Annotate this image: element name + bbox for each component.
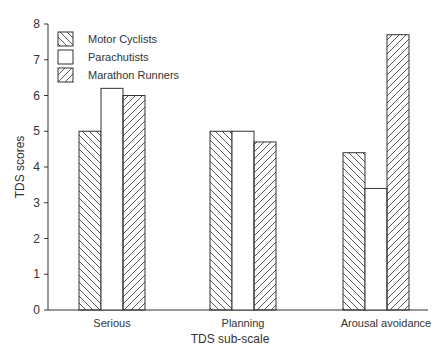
x-axis-label: TDS sub-scale [191,332,270,346]
legend-swatch [58,68,73,82]
bar-group-serious: Serious [79,88,145,329]
x-tick-label: Arousal avoidance [341,317,432,329]
legend-label: Motor Cyclists [88,33,158,45]
bar-marathon-runners [123,96,145,311]
legend-label: Marathon Runners [88,69,180,81]
bar-motor-cyclists [79,131,101,310]
legend-swatch [58,32,73,46]
bar-motor-cyclists [210,131,232,310]
bar-parachutists [101,88,123,310]
y-tick-label: 8 [33,17,40,31]
legend-label: Parachutists [88,51,149,63]
y-tick-label: 6 [33,89,40,103]
y-tick-label: 7 [33,53,40,67]
y-axis-label: TDS scores [13,136,27,199]
x-tick-label: Planning [222,317,265,329]
bar-chart: 012345678 SeriousPlanningArousal avoidan… [0,0,444,354]
bar-motor-cyclists [343,153,365,310]
bar-parachutists [365,188,387,310]
y-tick-label: 0 [33,303,40,317]
bar-group-planning: Planning [210,131,276,329]
legend-item: Parachutists [58,50,149,64]
chart-canvas: 012345678 SeriousPlanningArousal avoidan… [0,0,444,354]
bar-parachutists [232,131,254,310]
y-tick-label: 1 [33,267,40,281]
y-tick-label: 5 [33,124,40,138]
bar-marathon-runners [254,142,276,310]
legend-swatch [58,50,73,64]
y-tick-label: 4 [33,160,40,174]
bar-marathon-runners [387,35,409,310]
y-tick-label: 2 [33,232,40,246]
y-tick-label: 3 [33,196,40,210]
legend-item: Motor Cyclists [58,32,158,46]
legend: Motor CyclistsParachutistsMarathon Runne… [58,32,180,82]
bar-group-arousal-avoidance: Arousal avoidance [341,35,432,329]
x-tick-label: Serious [93,317,131,329]
legend-item: Marathon Runners [58,68,180,82]
